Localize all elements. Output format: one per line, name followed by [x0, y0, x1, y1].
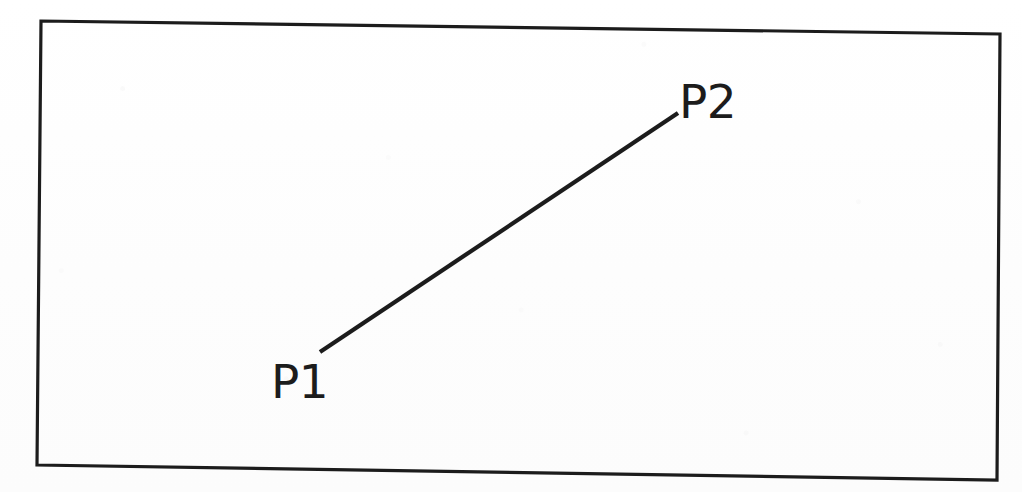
figure-root: P1 P2 [0, 0, 1022, 492]
point-label-p1: P1 [271, 358, 328, 405]
drawing-border-rectangle [37, 21, 1000, 480]
point-label-p2: P2 [679, 78, 736, 125]
diagram-canvas [0, 0, 1022, 492]
line-segment-p1-p2 [320, 113, 678, 352]
